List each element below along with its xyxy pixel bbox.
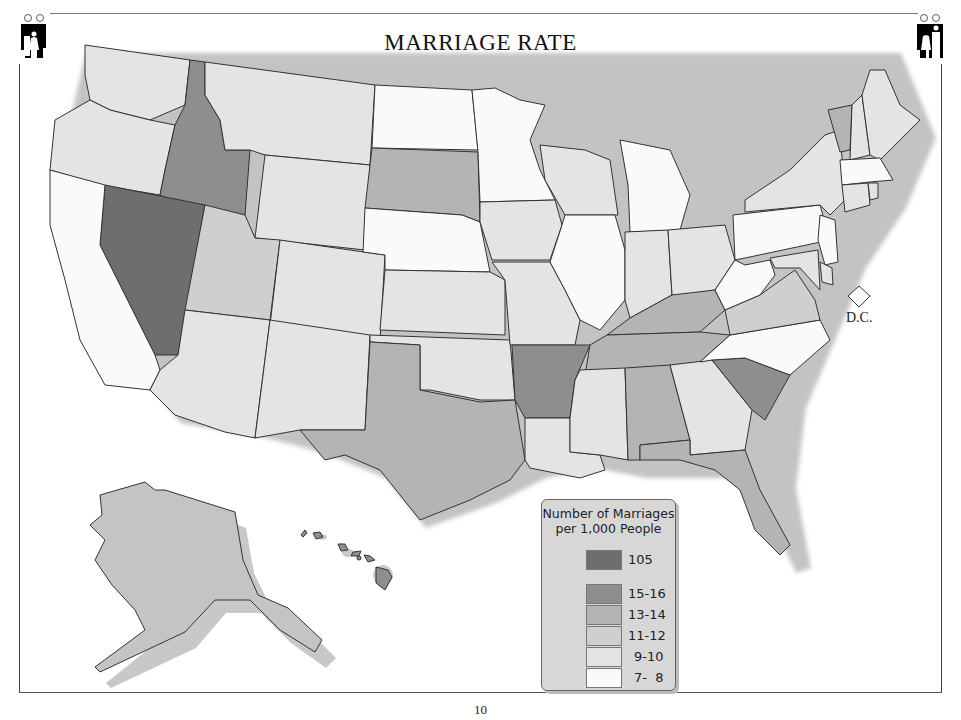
page-number: 10 — [0, 702, 961, 718]
state-hawaii — [301, 530, 392, 590]
dc-label: D.C. — [846, 310, 872, 326]
legend-title-line1: Number of Marriages — [542, 506, 675, 521]
legend-swatch — [586, 647, 622, 667]
legend-item: 15-16 — [586, 584, 666, 604]
legend-label: 9-10 — [634, 649, 664, 664]
state-iowa — [480, 200, 562, 260]
legend-item: 11-12 — [586, 626, 666, 646]
legend-swatch — [586, 550, 622, 570]
state-mississippi — [570, 368, 628, 460]
legend-swatch — [586, 668, 622, 688]
legend-swatch — [586, 605, 622, 625]
state-district-of-columbia — [848, 286, 870, 307]
state-new-mexico — [255, 320, 370, 438]
legend-item: 7- 8 — [586, 668, 666, 688]
legend-label: 13-14 — [628, 607, 666, 622]
state-rhode-island — [868, 183, 878, 200]
legend-label: 11-12 — [628, 628, 666, 643]
legend-title-line2: per 1,000 People — [542, 521, 675, 536]
legend-swatch — [586, 626, 622, 646]
legend-swatch — [586, 584, 622, 604]
legend-label: 105 — [628, 552, 653, 567]
state-north-dakota — [372, 85, 478, 150]
us-map — [0, 0, 961, 720]
legend-label: 15-16 — [628, 586, 666, 601]
map-legend: Number of Marriages per 1,000 People 105… — [541, 499, 676, 691]
legend-item: 105 — [586, 550, 666, 570]
state-alaska — [90, 482, 322, 672]
legend-item: 13-14 — [586, 605, 666, 625]
legend-label: 7- 8 — [634, 670, 664, 685]
state-wyoming — [255, 155, 370, 250]
legend-item: 9-10 — [586, 647, 666, 667]
state-kansas — [380, 270, 505, 335]
